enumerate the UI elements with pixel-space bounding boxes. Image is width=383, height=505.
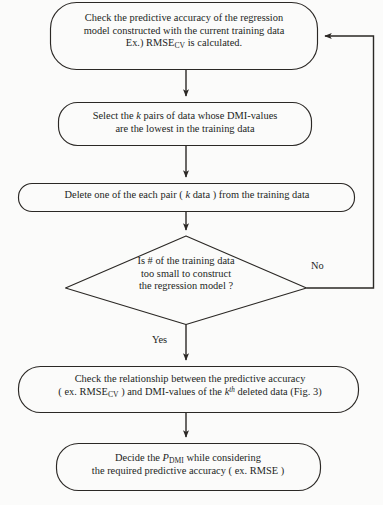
flowchart-canvas: Check the predictive accuracy of the reg… [0,0,383,505]
node-line: Is # of the training data [137,255,234,266]
node-line: model constructed with the current train… [84,25,285,36]
node-line-suffix: is calculated. [185,37,242,48]
node-line-suffix: data ) from the training data [190,189,309,200]
node-line-suffix: deleted data (Fig. 3) [235,386,322,397]
connector-decision-no-feedback-loop [307,36,374,288]
node-line-suffix: while considering [184,452,261,463]
node-line: too small to construct [141,268,231,279]
node-label-decision: Is # of the training datatoo small to co… [68,255,304,293]
node-line-prefix: Select the [93,110,137,121]
node-label-check-accuracy: Check the predictive accuracy of the reg… [52,12,316,50]
node-label-decide-pdmi: Decide the PDMI while consideringthe req… [58,452,318,477]
node-line-suffix: pairs of data whose DMI-values [141,110,278,121]
node-line-mid: ) and DMI-values of the [119,386,225,397]
node-line: Check the predictive accuracy of the reg… [85,12,283,23]
node-label-select-pairs: Select the k pairs of data whose DMI-val… [60,110,310,135]
node-line: Check the relationship between the predi… [75,373,306,384]
node-line: the required predictive accuracy ( ex. R… [92,465,284,476]
edge-label-no: No [311,261,324,271]
subscript-cv: CV [174,41,185,50]
node-line: the regression model ? [139,280,233,291]
node-line-prefix: Ex.) RMSE [126,37,175,48]
edge-label-yes: Yes [152,335,167,345]
subscript-dmi: DMI [169,456,184,465]
flowchart-shapes-layer [0,0,383,505]
node-label-delete-pair: Delete one of the each pair ( k data ) f… [22,189,352,202]
node-line: are the lowest in the training data [115,123,254,134]
node-line-prefix: Delete one of the each pair ( [64,189,185,200]
node-label-check-relationship: Check the relationship between the predi… [22,373,358,398]
node-line-prefix: ( ex. RMSE [58,386,108,397]
node-line-prefix: Decide the [115,452,163,463]
subscript-cv: CV [108,389,119,398]
